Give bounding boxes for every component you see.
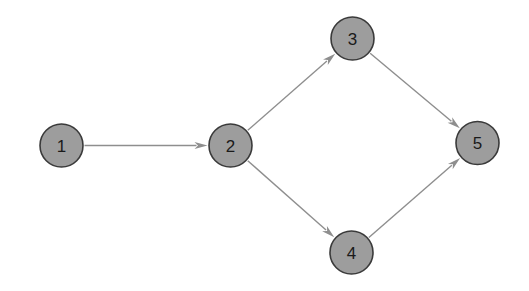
graph-edge-4-to-5 (369, 158, 460, 237)
node-label: 2 (226, 137, 235, 156)
graph-node-1[interactable]: 1 (40, 124, 83, 167)
graph-node-4[interactable]: 4 (330, 231, 373, 274)
graph-node-3[interactable]: 3 (331, 17, 374, 60)
edge-line (248, 61, 327, 130)
graph-edge-2-to-3 (248, 54, 335, 131)
node-label: 3 (348, 30, 357, 49)
edge-line (370, 53, 451, 121)
edges-layer (85, 53, 461, 237)
edge-line (248, 161, 326, 230)
edge-line (369, 165, 452, 237)
graph-node-2[interactable]: 2 (209, 124, 252, 167)
node-label: 1 (57, 137, 66, 156)
graph-canvas: 12345 (0, 0, 529, 291)
directed-graph-figure: 12345 (0, 0, 529, 291)
graph-edge-3-to-5 (370, 53, 460, 128)
graph-edge-2-to-4 (248, 161, 335, 238)
graph-node-5[interactable]: 5 (456, 122, 499, 165)
node-label: 5 (473, 134, 482, 153)
graph-edge-1-to-2 (85, 142, 208, 149)
node-label: 4 (347, 244, 356, 263)
